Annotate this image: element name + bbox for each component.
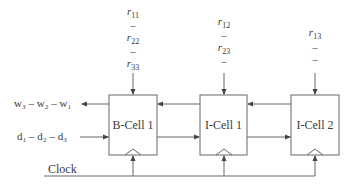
r22-label: r22	[121, 32, 145, 46]
clock-label: Clock	[48, 163, 77, 175]
icell1-clock-triangle	[216, 149, 232, 155]
icell2-label: I-Cell 2	[291, 118, 339, 133]
icell2-clock-triangle	[307, 149, 323, 155]
w-output-label: w₃ – w₂ – w₁	[14, 98, 71, 109]
dash: –	[121, 47, 145, 57]
dash: –	[121, 21, 145, 31]
d-input-label: d₁ – d₂ – d₃	[17, 131, 67, 142]
dash: –	[303, 43, 327, 53]
bcell1-label: B-Cell 1	[109, 118, 157, 133]
icell1-label: I-Cell 1	[200, 118, 247, 133]
r12-label: r12	[212, 16, 236, 30]
r13-label: r13	[303, 27, 327, 41]
r33-label: r33	[121, 58, 145, 72]
dash: –	[212, 57, 236, 67]
dash: –	[212, 31, 236, 41]
bcell1-clock-triangle	[125, 149, 141, 155]
dash: –	[303, 55, 327, 65]
r11-label: r11	[121, 6, 145, 20]
r23-label: r23	[212, 42, 236, 56]
